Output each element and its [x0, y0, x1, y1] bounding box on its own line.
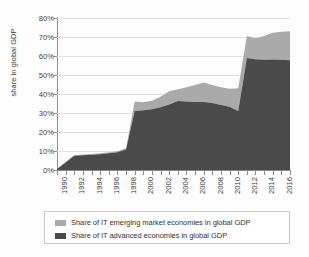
y-tick-label: 70% [14, 33, 54, 42]
x-tick-mark [212, 171, 213, 175]
y-tick-label: 50% [14, 71, 54, 80]
y-tick-mark [53, 18, 57, 19]
x-tick-label: 2016 [285, 177, 294, 194]
x-tick-mark [117, 171, 118, 175]
y-tick-mark [53, 151, 57, 152]
x-tick-label: 2000 [146, 177, 155, 194]
x-tick-mark [126, 171, 127, 175]
x-tick-label: 2014 [267, 177, 276, 194]
x-tick-label: 1998 [129, 177, 138, 194]
y-tick-mark [53, 75, 57, 76]
y-tick-label: 40% [14, 90, 54, 99]
legend-item-emerging: Share of IT emerging market economies in… [55, 217, 250, 228]
legend-swatch-advanced [55, 233, 66, 239]
x-tick-mark [135, 171, 136, 175]
y-tick-label: 60% [14, 52, 54, 61]
x-tick-label: 2006 [198, 177, 207, 194]
x-tick-mark [100, 171, 101, 175]
x-tick-label: 1996 [112, 177, 121, 194]
x-tick-label: 2012 [250, 177, 259, 194]
x-tick-label: 2004 [181, 177, 190, 194]
x-tick-mark [247, 171, 248, 175]
x-tick-mark [143, 171, 144, 175]
y-tick-label: 80% [14, 14, 54, 23]
x-tick-mark [66, 171, 67, 175]
series-advanced-area [57, 58, 290, 170]
y-tick-mark [53, 37, 57, 38]
legend-swatch-emerging [55, 220, 66, 226]
x-tick-mark [221, 171, 222, 175]
x-tick-mark [238, 171, 239, 175]
legend-label-advanced: Share of IT advanced economies in global… [71, 231, 227, 240]
x-tick-mark [169, 171, 170, 175]
x-tick-mark [273, 171, 274, 175]
y-tick-label: 20% [14, 128, 54, 137]
plot-area [57, 18, 290, 170]
x-tick-mark [204, 171, 205, 175]
x-tick-mark [152, 171, 153, 175]
stacked-area-series [57, 18, 290, 170]
x-tick-mark [161, 171, 162, 175]
x-tick-mark [230, 171, 231, 175]
x-tick-label: 2002 [164, 177, 173, 194]
x-tick-mark [109, 171, 110, 175]
x-tick-mark [195, 171, 196, 175]
x-tick-label: 1992 [77, 177, 86, 194]
y-tick-label: 0% [14, 166, 54, 175]
x-tick-mark [74, 171, 75, 175]
y-tick-mark [53, 56, 57, 57]
y-tick-mark [53, 113, 57, 114]
x-tick-mark [83, 171, 84, 175]
x-tick-mark [290, 171, 291, 175]
legend-item-advanced: Share of IT advanced economies in global… [55, 230, 227, 241]
chart-legend: Share of IT emerging market economies in… [44, 211, 290, 244]
x-tick-mark [186, 171, 187, 175]
x-tick-label: 2010 [233, 177, 242, 194]
legend-label-emerging: Share of IT emerging market economies in… [71, 218, 250, 227]
plot-frame [57, 18, 290, 170]
y-tick-label: 10% [14, 147, 54, 156]
x-tick-label: 2008 [216, 177, 225, 194]
x-tick-label: 1994 [95, 177, 104, 194]
y-tick-mark [53, 94, 57, 95]
area-chart: share in global GDP 0%10%20%30%40%50%60%… [0, 0, 309, 257]
x-tick-mark [92, 171, 93, 175]
x-tick-label: 1990 [60, 177, 69, 194]
x-tick-mark [178, 171, 179, 175]
y-tick-mark [53, 132, 57, 133]
x-tick-mark [255, 171, 256, 175]
x-tick-mark [281, 171, 282, 175]
x-tick-mark [264, 171, 265, 175]
y-tick-label: 30% [14, 109, 54, 118]
x-tick-mark [57, 171, 58, 175]
